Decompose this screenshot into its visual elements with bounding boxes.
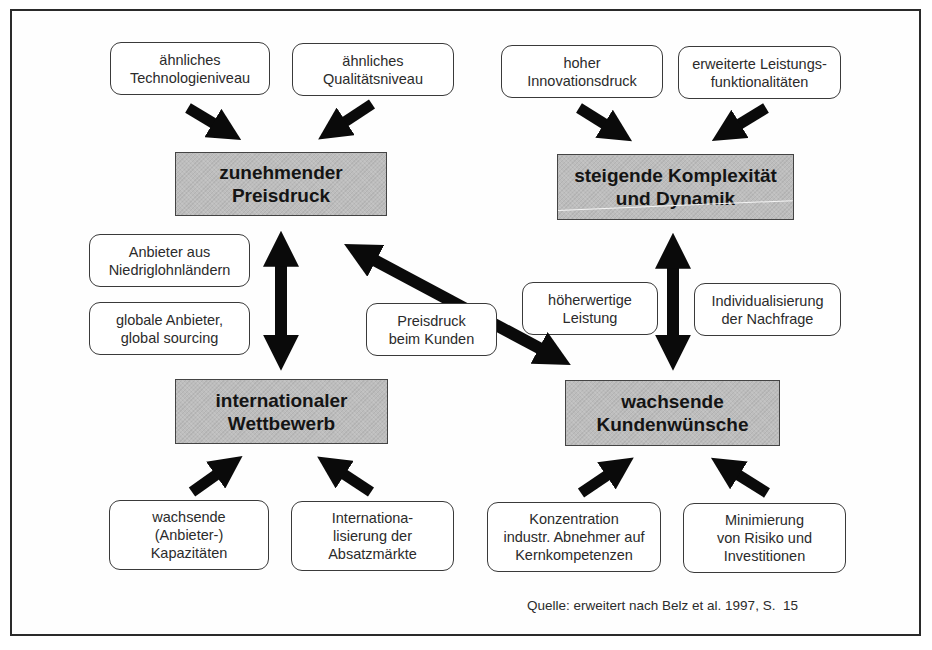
node-quality-level: ähnliches Qualitätsniveau [292,43,454,96]
diagram-canvas: ähnliches Technologieniveau ähnliches Qu… [0,0,932,650]
node-customer-price-pressure: Preisdruck beim Kunden [366,303,497,356]
node-growing-capacities: wachsende (Anbieter-) Kapazitäten [109,500,269,570]
source-citation: Quelle: erweitert nach Belz et al. 1997,… [527,598,798,613]
node-higher-value-service: höherwertige Leistung [522,282,658,335]
node-internationalization-markets: Internationa- lisierung der Absatzmärkte [291,501,454,571]
node-global-sourcing: globale Anbieter, global sourcing [89,302,250,355]
core-international-competition: internationaler Wettbewerb [175,379,388,444]
node-technology-level: ähnliches Technologieniveau [110,42,270,95]
node-low-wage-suppliers: Anbieter aus Niedriglohnländern [89,234,250,287]
core-growing-customer-wishes: wachsende Kundenwünsche [565,380,780,446]
node-risk-minimization: Minimierung von Risiko und Investitionen [683,503,846,573]
core-rising-complexity-dynamics: steigende Komplexität und Dynamik [557,154,794,220]
node-innovation-pressure: hoher Innovationsdruck [501,45,663,98]
node-individualization-demand: Individualisierung der Nachfrage [694,283,841,336]
node-core-competence-focus: Konzentration industr. Abnehmer auf Kern… [487,502,661,572]
node-extended-functionality: erweiterte Leistungs- funktionalitäten [678,46,841,99]
core-increasing-price-pressure: zunehmender Preisdruck [175,152,387,216]
